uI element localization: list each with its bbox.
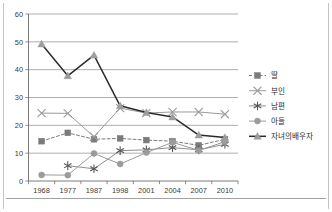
x-tick-label: 1998 [112, 186, 128, 195]
data-point-marker [255, 73, 261, 79]
data-point-marker [39, 138, 45, 144]
data-point-marker [143, 137, 149, 143]
legend-label: 남편 [271, 101, 285, 111]
legend-label: 아들 [271, 116, 285, 126]
chart-figure: 0102030405060 19681977198719982001200420… [0, 0, 332, 212]
data-point-marker [39, 172, 45, 178]
legend-label: 딸 [271, 70, 278, 80]
data-point-marker [91, 150, 97, 156]
legend-label: 자녀의배우자 [271, 131, 313, 141]
y-tick-label: 50 [15, 38, 23, 47]
line-chart: 0102030405060 19681977198719982001200420… [0, 0, 332, 212]
legend-label: 부인 [271, 86, 285, 96]
y-tick-label: 40 [15, 65, 23, 74]
data-point-marker [117, 161, 123, 167]
x-tick-label: 2010 [217, 186, 233, 195]
x-tick-label: 2007 [190, 186, 206, 195]
x-tick-label: 1968 [33, 186, 49, 195]
y-tick-label: 0 [19, 177, 23, 186]
y-tick-label: 30 [15, 93, 23, 102]
x-tick-label: 2004 [164, 186, 180, 195]
data-point-marker [143, 150, 149, 156]
data-point-marker [65, 130, 71, 136]
y-tick-label: 20 [15, 121, 23, 130]
data-point-marker [255, 118, 261, 124]
x-tick-label: 2001 [138, 186, 154, 195]
data-point-marker [117, 136, 123, 142]
x-tick-label: 1987 [86, 186, 102, 195]
y-tick-label: 60 [15, 10, 23, 19]
y-tick-label: 10 [15, 149, 23, 158]
data-point-marker [170, 139, 176, 145]
data-point-marker [65, 172, 71, 178]
data-point-marker [196, 147, 202, 153]
x-tick-label: 1977 [60, 186, 76, 195]
